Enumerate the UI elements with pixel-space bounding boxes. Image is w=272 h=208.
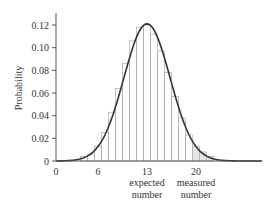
x-tick-label: 6 (96, 166, 101, 177)
y-tick-label: 0.06 (32, 88, 50, 99)
y-tick-label: 0.04 (32, 110, 50, 121)
histogram-bar (158, 51, 165, 161)
x-tick-label: 0 (54, 166, 59, 177)
y-tick-label: 0.10 (32, 42, 50, 53)
annotation-measured-line1: measured (177, 177, 215, 188)
histogram-bar (137, 27, 144, 161)
y-tick-label: 0.08 (32, 65, 50, 76)
histogram-bar (144, 25, 151, 161)
y-tick-label: 0.12 (32, 20, 50, 31)
y-tick-label: 0 (44, 156, 49, 167)
x-tick-label: 20 (191, 166, 201, 177)
annotation-expected-line1: expected (129, 177, 165, 188)
histogram-bar (130, 41, 137, 161)
histogram-bar (151, 34, 158, 161)
y-ticks: 00.020.040.060.080.100.12 (32, 20, 57, 167)
x-ticks: 061320 (54, 166, 202, 177)
histogram-bar (116, 88, 123, 161)
gaussian-curve (56, 24, 262, 161)
x-tick-label: 13 (142, 166, 152, 177)
histogram-bars (81, 25, 214, 161)
histogram-bar (165, 73, 172, 161)
y-tick-label: 0.02 (32, 133, 50, 144)
y-axis-label: Probability (13, 66, 24, 110)
probability-chart: 00.020.040.060.080.100.12 061320 Probabi… (0, 0, 272, 208)
annotation-expected-line2: number (132, 189, 163, 200)
histogram-bar (102, 133, 109, 161)
annotation-measured-line2: number (181, 189, 212, 200)
